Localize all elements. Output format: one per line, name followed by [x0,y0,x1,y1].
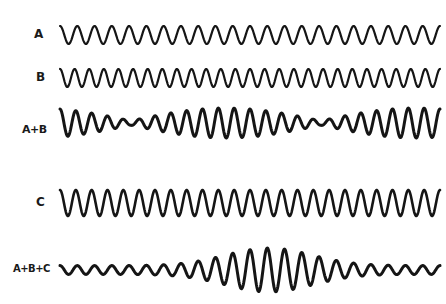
waves-canvas [0,0,446,304]
wave-a-plus-b-plus-c [60,248,440,292]
wave-a-plus-b [60,108,440,138]
wave-c [60,190,440,216]
wave-b [60,69,440,87]
wave-a [60,26,440,44]
